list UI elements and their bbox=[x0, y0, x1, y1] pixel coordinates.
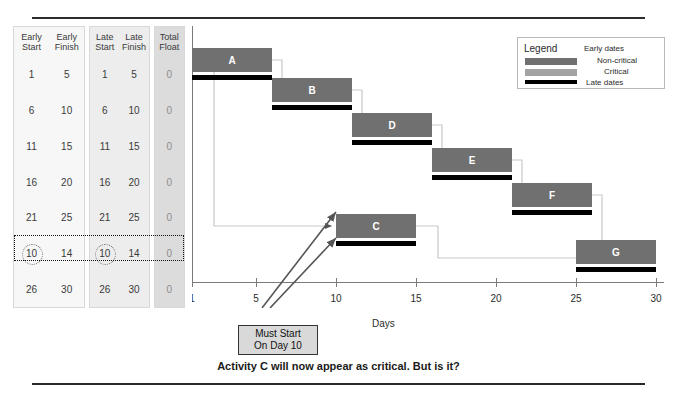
cell-total-float: 0 bbox=[155, 141, 184, 152]
x-axis-label: Days bbox=[372, 318, 395, 329]
table-row: 15 bbox=[14, 57, 84, 93]
header-line: Total bbox=[160, 32, 179, 42]
cell-early-finish: 25 bbox=[49, 212, 84, 223]
header-late-finish: Late Finish bbox=[119, 27, 148, 57]
table-row: 1620 bbox=[90, 164, 149, 200]
cell-early-finish: 5 bbox=[49, 69, 84, 80]
table-row: 610 bbox=[90, 93, 149, 129]
cell-total-float: 0 bbox=[155, 212, 184, 223]
header-line: Float bbox=[159, 42, 179, 52]
svg-text:G: G bbox=[612, 247, 620, 258]
svg-text:15: 15 bbox=[410, 293, 422, 304]
table-row: 0 bbox=[155, 271, 184, 307]
legend-label-late-dates: Late dates bbox=[586, 78, 623, 87]
cell-early-start: 11 bbox=[14, 141, 49, 152]
cell-late-start: 1 bbox=[90, 69, 119, 80]
callout-line-1: Must Start bbox=[255, 328, 301, 341]
header-total-float: Total Float bbox=[155, 27, 184, 57]
table-row: 2630 bbox=[14, 271, 84, 307]
task-bar-F[interactable]: F bbox=[512, 183, 592, 215]
task-bar-E[interactable]: E bbox=[432, 148, 512, 180]
bottom-divider bbox=[32, 383, 645, 385]
cell-early-finish: 15 bbox=[49, 141, 84, 152]
schedule-table: Early Start Early Finish 15 610 1115 162… bbox=[13, 26, 185, 308]
cell-total-float: 0 bbox=[155, 177, 184, 188]
task-bar-C[interactable]: C bbox=[336, 214, 416, 246]
table-row: 2125 bbox=[90, 200, 149, 236]
cell-late-finish: 5 bbox=[119, 69, 148, 80]
task-bar-D[interactable]: D bbox=[352, 113, 432, 145]
svg-text:B: B bbox=[308, 85, 315, 96]
cell-early-finish: 14 bbox=[49, 248, 84, 259]
table-row: 0 bbox=[155, 128, 184, 164]
table-row: 0 bbox=[155, 93, 184, 129]
header-line: Early bbox=[56, 32, 77, 42]
header-line: Late bbox=[96, 32, 114, 42]
header-line: Late bbox=[125, 32, 143, 42]
callout-must-start: Must Start On Day 10 bbox=[238, 325, 318, 355]
cell-early-finish: 10 bbox=[49, 105, 84, 116]
total-float-rows: 0 0 0 0 0 0 0 bbox=[155, 57, 184, 307]
task-bar-G[interactable]: G bbox=[576, 240, 656, 272]
svg-text:A: A bbox=[228, 55, 235, 66]
legend-swatch-late-dates bbox=[525, 80, 577, 84]
cell-total-float: 0 bbox=[155, 105, 184, 116]
table-row-highlighted: 0 bbox=[155, 236, 184, 272]
table-header-row: Early Start Early Finish bbox=[14, 27, 84, 57]
cell-early-start-circled: 10 bbox=[14, 248, 49, 259]
table-header-row: Late Start Late Finish bbox=[90, 27, 149, 57]
svg-text:20: 20 bbox=[490, 293, 502, 304]
header-late-start: Late Start bbox=[90, 27, 119, 57]
legend-swatch-critical bbox=[525, 69, 577, 76]
svg-text:D: D bbox=[388, 120, 395, 131]
svg-text:F: F bbox=[549, 190, 555, 201]
legend-label-non-critical: Non-critical bbox=[597, 56, 637, 65]
header-line: Finish bbox=[55, 42, 79, 52]
cell-total-float: 0 bbox=[155, 284, 184, 295]
svg-text:30: 30 bbox=[650, 293, 662, 304]
task-bar-B[interactable]: B bbox=[272, 78, 352, 110]
table-row: 1620 bbox=[14, 164, 84, 200]
header-line: Start bbox=[22, 42, 41, 52]
x-axis-tick-labels: 1 5 10 15 20 25 30 bbox=[192, 293, 662, 304]
legend-swatch-non-critical bbox=[525, 58, 577, 65]
svg-text:5: 5 bbox=[253, 293, 259, 304]
svg-text:C: C bbox=[372, 221, 379, 232]
cell-late-start: 6 bbox=[90, 105, 119, 116]
cell-early-start: 21 bbox=[14, 212, 49, 223]
table-row: 0 bbox=[155, 57, 184, 93]
header-line: Start bbox=[95, 42, 114, 52]
cell-late-finish: 14 bbox=[119, 248, 148, 259]
cell-early-start: 26 bbox=[14, 284, 49, 295]
table-row: 610 bbox=[14, 93, 84, 129]
cell-early-start: 6 bbox=[14, 105, 49, 116]
legend-label-critical: Critical bbox=[604, 67, 628, 76]
cell-late-start: 16 bbox=[90, 177, 119, 188]
table-row: 1115 bbox=[90, 128, 149, 164]
table-row: 15 bbox=[90, 57, 149, 93]
late-dates-column-group: Late Start Late Finish 15 610 1115 1620 … bbox=[89, 26, 150, 308]
cell-late-start: 11 bbox=[90, 141, 119, 152]
cell-late-finish: 15 bbox=[119, 141, 148, 152]
callout-line-2: On Day 10 bbox=[254, 340, 302, 353]
cell-late-finish: 25 bbox=[119, 212, 148, 223]
cell-total-float: 0 bbox=[155, 248, 184, 259]
cell-late-finish: 20 bbox=[119, 177, 148, 188]
cell-early-start: 16 bbox=[14, 177, 49, 188]
early-dates-column-group: Early Start Early Finish 15 610 1115 162… bbox=[13, 26, 85, 308]
legend: Legend Early dates Non-critical Critical… bbox=[517, 37, 665, 89]
top-divider bbox=[32, 17, 645, 19]
svg-text:25: 25 bbox=[570, 293, 582, 304]
cell-early-finish: 20 bbox=[49, 177, 84, 188]
cell-late-finish: 10 bbox=[119, 105, 148, 116]
figure-caption: Activity C will now appear as critical. … bbox=[0, 360, 677, 372]
svg-text:10: 10 bbox=[330, 293, 342, 304]
header-early-finish: Early Finish bbox=[49, 27, 84, 57]
svg-text:E: E bbox=[469, 155, 476, 166]
cell-early-start: 1 bbox=[14, 69, 49, 80]
table-row: 0 bbox=[155, 164, 184, 200]
task-bar-A[interactable]: A bbox=[192, 48, 272, 80]
legend-title: Legend bbox=[524, 43, 557, 54]
table-row-highlighted: 1014 bbox=[14, 236, 84, 272]
cell-total-float: 0 bbox=[155, 69, 184, 80]
